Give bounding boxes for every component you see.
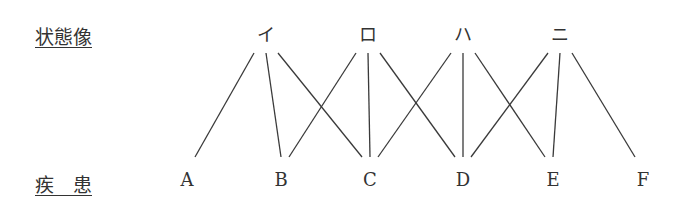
edge-i-B bbox=[266, 53, 281, 157]
edge-ni-F bbox=[572, 53, 635, 157]
edge-ha-C bbox=[378, 53, 451, 157]
edge-ro-B bbox=[289, 53, 356, 157]
edge-i-A bbox=[195, 53, 254, 157]
edge-ro-C bbox=[368, 53, 370, 157]
connection-lines bbox=[0, 0, 685, 206]
edge-ni-E bbox=[553, 53, 560, 157]
edge-ro-D bbox=[380, 53, 455, 157]
edge-i-C bbox=[278, 53, 362, 157]
edge-ni-D bbox=[471, 53, 548, 157]
